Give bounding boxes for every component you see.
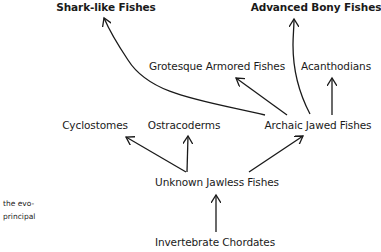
node-advanced-bony-fishes: Advanced Bony Fishes: [251, 2, 381, 13]
side-text-line-1: the evo-: [3, 200, 34, 208]
edge-jawless-to-cyclostomes: [126, 137, 186, 172]
edge-archaic-to-armored: [236, 78, 287, 115]
edge-jawless-to-archaic: [249, 136, 303, 172]
node-ostracoderms: Ostracoderms: [148, 120, 221, 131]
node-unknown-jawless-fishes: Unknown Jawless Fishes: [155, 177, 279, 188]
node-cyclostomes: Cyclostomes: [62, 120, 128, 131]
node-shark-like-fishes: Shark-like Fishes: [56, 2, 156, 13]
node-acanthodians: Acanthodians: [301, 61, 371, 72]
side-text-line-2: principal: [3, 213, 35, 221]
edge-jawless-to-ostracoderms: [187, 136, 188, 172]
node-invertebrate-chordates: Invertebrate Chordates: [155, 237, 275, 248]
node-archaic-jawed-fishes: Archaic Jawed Fishes: [265, 120, 372, 131]
node-grotesque-armored-fishes: Grotesque Armored Fishes: [149, 61, 285, 72]
